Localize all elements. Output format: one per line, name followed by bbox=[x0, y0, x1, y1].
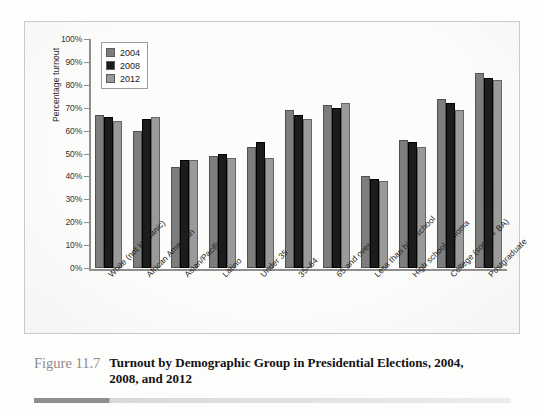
bar-2008 bbox=[332, 108, 341, 268]
figure-title: Turnout by Demographic Group in Presiden… bbox=[109, 355, 479, 387]
y-axis-tick-mark bbox=[84, 131, 89, 132]
bar-2012 bbox=[341, 103, 350, 268]
x-axis-labels: White (not Hispanic)African AmericanAsia… bbox=[89, 272, 519, 336]
y-axis-tick-label: 90% bbox=[66, 57, 82, 67]
caption-rule bbox=[34, 398, 511, 403]
bar-group bbox=[285, 39, 312, 268]
y-axis-tick-mark bbox=[84, 39, 89, 40]
legend-swatch-icon bbox=[106, 74, 115, 83]
legend-label: 2012 bbox=[120, 74, 140, 84]
bar-2004 bbox=[323, 105, 332, 268]
y-axis-tick-label: 50% bbox=[66, 149, 82, 159]
y-axis-tick-label: 70% bbox=[66, 103, 82, 113]
bar-group bbox=[361, 39, 388, 268]
y-axis-tick-mark bbox=[84, 62, 89, 63]
legend-label: 2004 bbox=[120, 48, 140, 58]
y-axis-tick-mark bbox=[84, 176, 89, 177]
y-axis-tick-label: 10% bbox=[66, 240, 82, 250]
bar-group bbox=[323, 39, 350, 268]
y-axis-tick-label: 60% bbox=[66, 126, 82, 136]
y-axis-tick-mark bbox=[84, 268, 89, 269]
bar-2012 bbox=[227, 158, 236, 268]
bar-2012 bbox=[417, 147, 426, 268]
bar-group bbox=[247, 39, 274, 268]
bar-2004 bbox=[285, 110, 294, 268]
bar-2008 bbox=[370, 179, 379, 268]
y-axis-tick-label: 80% bbox=[66, 80, 82, 90]
figure-caption: Figure 11.7 Turnout by Demographic Group… bbox=[34, 355, 504, 387]
bar-2012 bbox=[493, 80, 502, 268]
y-axis-tick-mark bbox=[84, 222, 89, 223]
figure-frame: Percentage turnout 100%90%80%70%60%50%40… bbox=[24, 21, 520, 334]
bar-2012 bbox=[151, 117, 160, 268]
bar-2012 bbox=[189, 160, 198, 268]
bar-2012 bbox=[113, 121, 122, 268]
bar-2008 bbox=[180, 160, 189, 268]
bar-2012 bbox=[303, 119, 312, 268]
legend-label: 2008 bbox=[120, 61, 140, 71]
bar-2012 bbox=[265, 158, 274, 268]
bar-2008 bbox=[104, 117, 113, 268]
chart-legend: 200420082012 bbox=[101, 42, 148, 89]
y-axis-tick-label: 30% bbox=[66, 194, 82, 204]
bar-2004 bbox=[247, 147, 256, 268]
legend-item: 2012 bbox=[106, 72, 140, 85]
y-axis-tick-mark bbox=[84, 199, 89, 200]
legend-swatch-icon bbox=[106, 48, 115, 57]
legend-item: 2008 bbox=[106, 59, 140, 72]
bar-2008 bbox=[294, 115, 303, 268]
y-axis-tick-mark bbox=[84, 245, 89, 246]
bar-group bbox=[209, 39, 236, 268]
bar-2008 bbox=[256, 142, 265, 268]
legend-item: 2004 bbox=[106, 46, 140, 59]
bar-2004 bbox=[95, 115, 104, 268]
y-axis-tick-mark bbox=[84, 154, 89, 155]
figure-number: Figure 11.7 bbox=[34, 355, 100, 371]
y-axis-title: Percentage turnout bbox=[51, 48, 61, 122]
bar-2008 bbox=[218, 154, 227, 269]
y-axis-tick-mark bbox=[84, 108, 89, 109]
y-axis-tick-label: 20% bbox=[66, 217, 82, 227]
y-axis-tick-label: 40% bbox=[66, 171, 82, 181]
y-axis-tick-mark bbox=[84, 85, 89, 86]
y-axis-tick-label: 100% bbox=[61, 34, 82, 44]
legend-swatch-icon bbox=[106, 61, 115, 70]
bar-2012 bbox=[379, 181, 388, 268]
bar-2008 bbox=[408, 142, 417, 268]
y-axis-tick-label: 0% bbox=[70, 263, 82, 273]
bar-2012 bbox=[455, 110, 464, 268]
y-axis-line bbox=[89, 39, 91, 270]
